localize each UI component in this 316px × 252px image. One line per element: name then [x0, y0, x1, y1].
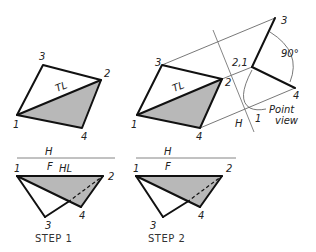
vertex-label-2: 2 [225, 77, 231, 88]
front-vertex-label-3: 3 [150, 220, 156, 231]
step2-top-view: 3 2 1 4 TL [131, 57, 231, 142]
point-view-label-line1: Point [269, 104, 295, 115]
vertex-label-1: 1 [131, 119, 137, 130]
step1-group: 3 2 1 4 TL H F 1 HL [13, 51, 115, 244]
point-view-label-line2: view [275, 115, 299, 126]
step2-group: H 1 3 2 1 4 TL 3 2,1 [131, 15, 299, 244]
fold-label-f: F [165, 161, 171, 172]
front-vertex-label-3: 3 [45, 220, 51, 231]
step2-front-view: 1 2 4 3 [133, 163, 232, 231]
step1-top-view: 3 2 1 4 TL [13, 51, 110, 142]
true-length-label: TL [54, 79, 69, 94]
step1-caption: STEP 1 [35, 233, 72, 244]
aux-fold-label-1: 1 [255, 113, 261, 124]
point-view-leader [243, 70, 266, 110]
vertex-label-3: 3 [39, 51, 45, 62]
horizontal-line-label: HL [59, 163, 72, 174]
front-vertex-label-1: 1 [133, 163, 139, 174]
aux-edge-21-4 [252, 67, 295, 88]
shaded-triangle-front [136, 176, 222, 207]
edge-3-crossing [163, 202, 187, 217]
vertex-label-4: 4 [81, 131, 87, 142]
fold-label-h: H [164, 146, 172, 157]
vertex-label-2: 2 [104, 68, 110, 79]
front-vertex-label-4: 4 [198, 210, 204, 221]
vertex-label-4: 4 [196, 131, 202, 142]
angle-label: 90° [281, 48, 299, 59]
step1-front-view: 1 HL 2 4 3 [14, 163, 114, 231]
front-vertex-label-4: 4 [79, 210, 85, 221]
aux-vertex-label-4: 4 [293, 90, 299, 101]
front-vertex-label-2: 2 [108, 171, 114, 182]
aux-fold-label-h: H [235, 118, 243, 129]
fold-label-h: H [45, 146, 53, 157]
descriptive-geometry-figure: 3 2 1 4 TL H F 1 HL [0, 0, 316, 252]
drawing: 3 2 1 4 TL H F 1 HL [0, 0, 316, 252]
projection-line-3 [162, 18, 275, 65]
vertex-label-3: 3 [155, 57, 161, 68]
aux-edge-21-3 [252, 18, 275, 67]
step2-caption: STEP 2 [148, 233, 185, 244]
shaded-triangle-front [17, 176, 103, 207]
aux-point-label-2-1: 2,1 [232, 57, 248, 68]
true-length-label: TL [171, 79, 186, 94]
fold-label-f: F [47, 161, 53, 172]
step2-fold-line: H F [136, 146, 236, 172]
front-vertex-label-2: 2 [226, 163, 232, 174]
front-vertex-label-1: 1 [14, 163, 20, 174]
edge-3-crossing [45, 202, 68, 217]
aux-vertex-label-3: 3 [281, 15, 287, 26]
vertex-label-1: 1 [13, 119, 19, 130]
